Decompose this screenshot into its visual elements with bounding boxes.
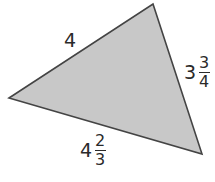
denominator: 3 <box>95 151 105 168</box>
triangle <box>9 4 202 154</box>
whole-number: 4 <box>80 141 92 160</box>
fraction: 3 4 <box>198 55 210 90</box>
side-label-bottom: 4 2 3 <box>80 133 106 168</box>
side-label-top-left: 4 <box>64 31 76 50</box>
triangle-figure <box>0 0 215 182</box>
numerator: 2 <box>94 133 106 150</box>
whole-number: 3 <box>184 63 196 82</box>
fraction: 2 3 <box>94 133 106 168</box>
side-label-right: 3 3 4 <box>184 55 210 90</box>
numerator: 3 <box>198 55 210 72</box>
denominator: 4 <box>199 73 209 90</box>
